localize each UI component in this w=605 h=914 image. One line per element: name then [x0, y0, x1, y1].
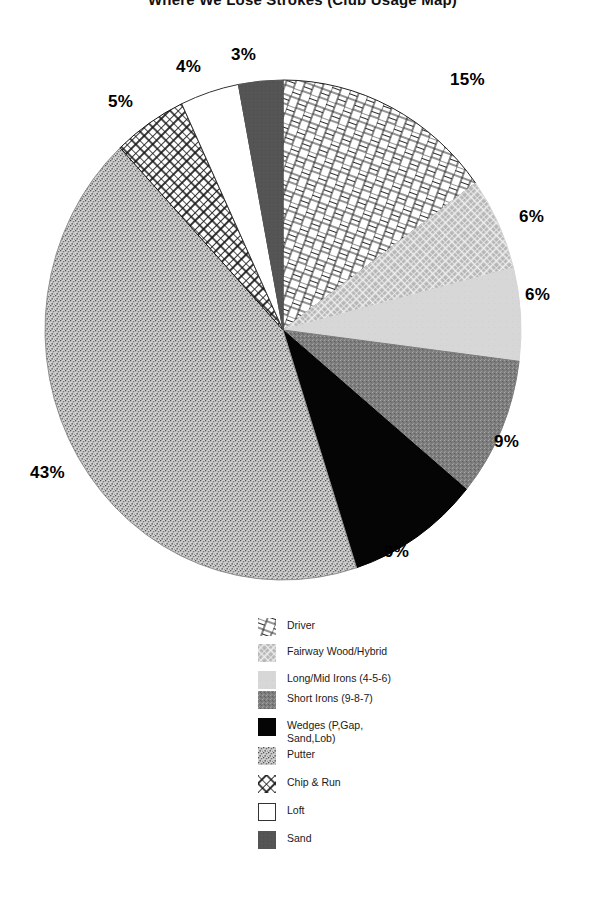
pie-slices	[45, 80, 521, 580]
legend-item-fairway-wood[interactable]: Fairway Wood/Hybrid	[258, 644, 558, 662]
legend-label-fairway-wood: Fairway Wood/Hybrid	[287, 644, 387, 658]
legend-item-sand[interactable]: Sand	[258, 831, 558, 849]
legend-label-long-mid-irons: Long/Mid Irons (4-5-6)	[287, 671, 391, 685]
slice-label-driver: 15%	[450, 70, 485, 90]
legend-label-sand: Sand	[287, 831, 312, 845]
slice-label-shortirons: 9%	[494, 432, 519, 452]
legend-item-driver[interactable]: Driver	[258, 618, 558, 636]
sand-swatch	[258, 831, 276, 849]
fairway-wood-swatch	[258, 644, 276, 662]
slice-label-chiprun: 5%	[108, 92, 133, 112]
legend-item-long-mid-irons[interactable]: Long/Mid Irons (4-5-6)	[258, 671, 558, 689]
long-mid-irons-swatch	[258, 671, 276, 689]
wedges-swatch	[258, 718, 276, 736]
pie-chart: 15% 6% 6% 9% 9% 43% 5% 4% 3%	[0, 0, 605, 600]
putter-swatch	[258, 747, 276, 765]
slice-label-sand: 3%	[231, 45, 256, 65]
slice-label-putter: 43%	[30, 463, 65, 483]
legend-label-short-irons: Short Irons (9-8-7)	[287, 691, 373, 705]
legend-item-short-irons[interactable]: Short Irons (9-8-7)	[258, 691, 558, 709]
legend-label-loft: Loft	[287, 803, 305, 817]
slice-label-longmid: 6%	[525, 285, 550, 305]
short-irons-swatch	[258, 691, 276, 709]
legend-label-driver: Driver	[287, 618, 315, 632]
slice-label-loft: 4%	[176, 57, 201, 77]
legend: Driver Fairway Wood/Hybrid Long/Mid Iron…	[258, 618, 558, 849]
slice-label-fairway: 6%	[519, 207, 544, 227]
chip-and-run-swatch	[258, 775, 276, 793]
legend-item-chip-and-run[interactable]: Chip & Run	[258, 775, 558, 793]
legend-item-wedges[interactable]: Wedges (P,Gap, Sand,Lob)	[258, 718, 558, 745]
legend-label-chip-and-run: Chip & Run	[287, 775, 341, 789]
legend-item-putter[interactable]: Putter	[258, 747, 558, 765]
legend-item-loft[interactable]: Loft	[258, 803, 558, 821]
pie-svg	[0, 0, 605, 600]
legend-label-putter: Putter	[287, 747, 315, 761]
driver-swatch	[258, 618, 276, 636]
slice-label-wedges: 9%	[384, 542, 409, 562]
loft-swatch	[258, 803, 276, 821]
legend-label-wedges: Wedges (P,Gap, Sand,Lob)	[287, 718, 367, 745]
